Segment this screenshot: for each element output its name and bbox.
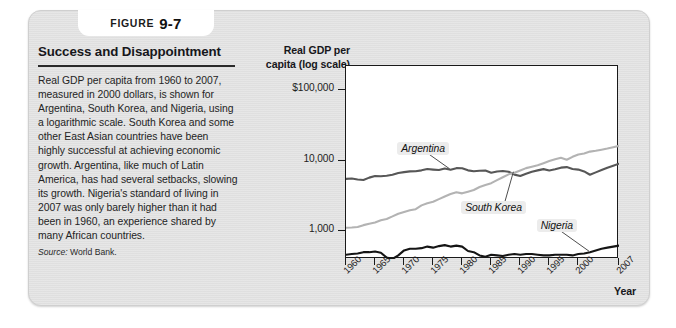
figure-number-tab: Figure 9-7 [78, 10, 214, 36]
plot-wrapper: $100,00010,0001,000 19601965197019751980… [238, 40, 638, 302]
callout-nigeria: Nigeria [537, 219, 577, 232]
figure-title: Success and Disappointment [38, 44, 238, 60]
y-tick-label: 10,000 [238, 153, 334, 164]
title-divider [38, 65, 235, 67]
y-tick-label: 1,000 [238, 223, 334, 234]
figure-tab-word: Figure [110, 17, 154, 29]
series-lines [346, 66, 619, 259]
plot-area [345, 65, 618, 258]
y-tick-mark [338, 230, 345, 231]
figure-screenshot: Figure 9-7 Success and Disappointment Re… [0, 0, 676, 328]
line-argentina [346, 164, 619, 180]
x-axis-title: Year [614, 285, 636, 297]
figure-tab-number: 9-7 [159, 15, 182, 32]
callout-south-korea: South Korea [461, 201, 526, 214]
callout-argentina: Argentina [397, 142, 449, 155]
source-label: Source: [38, 247, 68, 257]
line-south-korea [346, 146, 619, 228]
y-tick-label: $100,000 [238, 82, 334, 93]
figure-description: Real GDP per capita from 1960 to 2007, m… [38, 74, 238, 243]
source-value: World Bank. [70, 247, 117, 257]
y-tick-mark [338, 160, 345, 161]
figure-source: Source: World Bank. [38, 247, 238, 258]
figure-text-column: Success and Disappointment Real GDP per … [38, 44, 238, 258]
chart: Real GDP per capita (log scale) $100,000… [238, 40, 638, 302]
y-tick-mark [338, 89, 345, 90]
